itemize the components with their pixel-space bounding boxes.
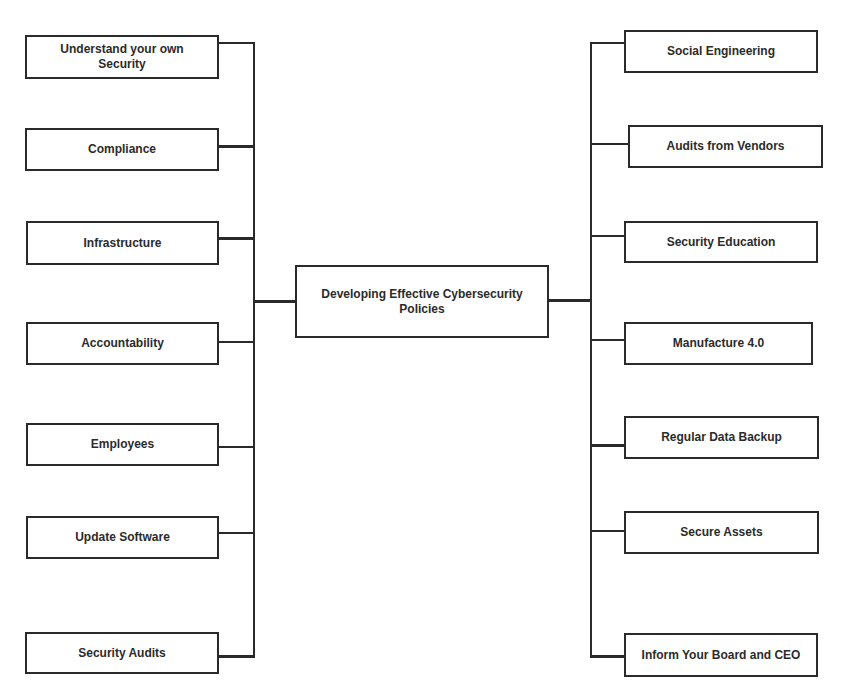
- node-label: Security Audits: [78, 646, 166, 661]
- node-label: Employees: [91, 437, 154, 452]
- node-security-audits: Security Audits: [25, 632, 219, 674]
- connector-right-4: [590, 339, 625, 341]
- node-label: Audits from Vendors: [666, 139, 784, 154]
- node-secure-assets: Secure Assets: [624, 511, 819, 554]
- node-update-software: Update Software: [26, 516, 219, 559]
- node-label: Infrastructure: [83, 236, 161, 251]
- node-audits-from-vendors: Audits from Vendors: [628, 125, 823, 168]
- connector-left-center: [255, 300, 295, 303]
- node-label-line2: Security: [98, 57, 145, 72]
- node-label-line1: Understand your own: [60, 42, 183, 57]
- connector-right-6: [590, 530, 625, 532]
- center-node: Developing Effective Cybersecurity Polic…: [295, 265, 549, 338]
- node-label: Accountability: [81, 336, 164, 351]
- connector-right-2: [590, 143, 628, 145]
- node-label: Social Engineering: [667, 44, 775, 59]
- left-trunk-line: [253, 42, 255, 657]
- right-trunk-line: [590, 42, 592, 657]
- node-label: Manufacture 4.0: [673, 336, 764, 351]
- connector-left-6: [218, 532, 255, 534]
- node-label: Security Education: [667, 235, 776, 250]
- node-label: Compliance: [88, 142, 156, 157]
- node-employees: Employees: [26, 423, 219, 466]
- node-inform-board-ceo: Inform Your Board and CEO: [624, 633, 818, 677]
- connector-right-5: [590, 444, 625, 447]
- node-label: Update Software: [75, 530, 170, 545]
- connector-left-5: [218, 446, 255, 448]
- node-infrastructure: Infrastructure: [26, 221, 219, 265]
- node-regular-data-backup: Regular Data Backup: [624, 416, 819, 459]
- node-label: Regular Data Backup: [661, 430, 782, 445]
- connector-left-4: [218, 341, 255, 343]
- node-manufacture-4: Manufacture 4.0: [624, 322, 813, 365]
- connector-left-1: [218, 42, 255, 44]
- node-security-education: Security Education: [624, 221, 818, 263]
- connector-right-3: [590, 235, 625, 237]
- center-node-line2: Policies: [399, 302, 444, 317]
- node-accountability: Accountability: [26, 322, 219, 365]
- center-node-line1: Developing Effective Cybersecurity: [321, 287, 522, 302]
- connector-left-3: [218, 237, 255, 240]
- node-compliance: Compliance: [25, 128, 219, 171]
- node-label: Secure Assets: [680, 525, 762, 540]
- node-understand-security: Understand your own Security: [25, 35, 219, 79]
- connector-right-7: [590, 655, 625, 658]
- node-social-engineering: Social Engineering: [624, 30, 818, 73]
- connector-right-center: [548, 299, 591, 302]
- connector-right-1: [590, 42, 625, 44]
- node-label: Inform Your Board and CEO: [642, 648, 801, 663]
- connector-left-7: [218, 655, 255, 658]
- connector-left-2: [218, 145, 255, 148]
